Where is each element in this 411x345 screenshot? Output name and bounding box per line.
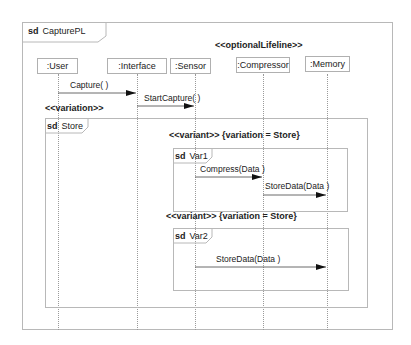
message-label-capture: Capture( ) (70, 80, 108, 90)
variant-var1-stereotype: <<variant>> {variation = Store} (169, 130, 300, 140)
lifeline-interface[interactable]: :Interface (107, 58, 167, 74)
message-label-storedata-var2: StoreData(Data ) (216, 254, 280, 264)
lifeline-user[interactable]: :User (37, 58, 78, 74)
lifeline-label: :Compressor (237, 60, 289, 70)
lifeline-label: :Sensor (175, 61, 206, 71)
variant-stereotype: <<variant>> (166, 211, 217, 221)
lifeline-compressor[interactable]: :Compressor (236, 57, 290, 73)
lifeline-label: :Interface (118, 61, 156, 71)
variant-constraint: {variation = Store} (219, 211, 297, 221)
variation-tab-corner (45, 118, 88, 133)
variant-var2-stereotype: <<variant>> {variation = Store} (166, 211, 297, 221)
variant-stereotype: <<variant>> (169, 130, 220, 140)
message-label-compress: Compress(Data ) (200, 164, 265, 174)
lifeline-sensor[interactable]: :Sensor (170, 58, 211, 74)
lifeline-memory[interactable]: :Memory (305, 56, 350, 72)
message-label-startcapture: StartCapture( ) (144, 93, 200, 103)
variant-constraint: {variation = Store} (222, 130, 300, 140)
message-label-storedata-var1: StoreData(Data ) (265, 181, 329, 191)
lifeline-label: :Memory (310, 59, 345, 69)
var1-tab-corner (173, 148, 212, 163)
optional-lifeline-stereotype: <<optionalLifeline>> (215, 40, 303, 50)
var2-tab-corner (173, 228, 212, 243)
variation-stereotype: <<variation>> (45, 103, 104, 113)
frame-tab-corner (22, 22, 106, 42)
lifeline-label: :User (47, 61, 69, 71)
